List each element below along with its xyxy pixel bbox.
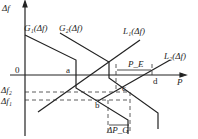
g2-label: G₂(Δf) [59,24,82,33]
dpg-label: ΔP_G [107,126,129,135]
l2-label: L₂(Δf) [164,52,186,61]
point-d-label: d [153,77,158,86]
point-c-label: c [122,84,126,93]
x-axis-label: P [177,78,183,87]
frequency-power-diagram: Δf P 0 G₁(Δf) G₂(Δf) L₁(Δf) L₂(Δf) Δf₂ Δ… [0,0,198,139]
point-b-label: b [95,101,100,110]
point-a-label: a [66,66,70,75]
origin-label: 0 [15,66,20,75]
g1-label: G₁(Δf) [24,24,47,33]
y-axis-label: Δf [2,4,10,13]
g2-curve [60,33,158,129]
pe-label: P_E [128,60,144,69]
df2-label: Δf₂ [1,86,12,95]
l1-label: L₁(Δf) [123,27,145,36]
y-axis-arrow-icon [23,1,27,7]
df1-label: Δf₁ [1,97,12,106]
diagram-lines [0,0,198,139]
